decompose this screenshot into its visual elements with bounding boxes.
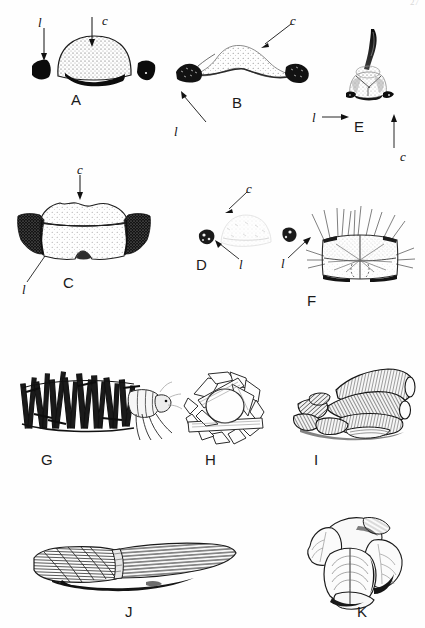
figure-g-label: G [41, 452, 53, 467]
figure-b-arrow-c [258, 22, 294, 50]
figure-c-arrow-c [73, 174, 87, 202]
figure-d-label: D [196, 257, 207, 272]
figure-b-arrow-l [178, 88, 210, 126]
figure-c-arrow-l [25, 252, 51, 284]
figure-a-arrow-l [38, 27, 52, 63]
figure-b-annot-l: l [174, 125, 178, 138]
figure-k [302, 512, 412, 612]
figure-i [288, 362, 420, 450]
figure-e-arrow-c [388, 112, 402, 150]
figure-e-label: E [354, 119, 364, 134]
figure-f [306, 198, 416, 286]
figure-j-label: J [125, 604, 133, 619]
figure-e [330, 26, 412, 108]
figure-a-arrow-c [86, 16, 100, 49]
figure-e-arrow-l [321, 112, 351, 124]
figure-e-annot-l: l [312, 111, 316, 124]
figure-a-label: A [71, 92, 81, 107]
figure-k-label: K [357, 604, 367, 619]
figure-h [180, 366, 272, 448]
figure-d [195, 208, 300, 263]
figure-c-label: C [63, 275, 74, 290]
figure-e-annot-c: c [400, 150, 406, 163]
figure-h-label: H [205, 452, 216, 467]
figure-b-label: B [232, 95, 242, 110]
figure-c-annot-l: l [22, 283, 26, 296]
figure-f-label: F [307, 293, 316, 308]
figure-d-arrow-c [222, 190, 250, 216]
page-number: 27 [410, 0, 419, 7]
figure-d-annot-l-right: l [281, 257, 285, 270]
figure-g [18, 362, 178, 447]
figure-i-label: I [314, 452, 318, 467]
figure-a-annot-c: c [102, 14, 108, 27]
figure-j [28, 534, 243, 604]
figure-d-arrow-l-left [212, 238, 242, 262]
illustration-plate: 27 l c A [0, 0, 425, 628]
